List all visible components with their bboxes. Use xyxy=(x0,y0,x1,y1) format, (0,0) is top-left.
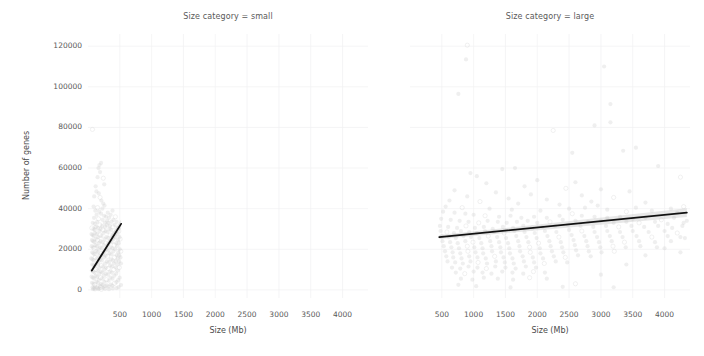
data-point xyxy=(532,260,536,264)
data-point xyxy=(478,199,482,203)
data-point xyxy=(557,214,561,218)
data-point xyxy=(557,235,561,239)
data-point xyxy=(481,251,485,255)
facet-title: Size category = small xyxy=(88,12,368,21)
data-point xyxy=(507,196,511,200)
data-point xyxy=(666,222,670,226)
data-point xyxy=(115,220,119,224)
data-point xyxy=(583,206,587,210)
data-point xyxy=(512,261,516,265)
data-point xyxy=(463,272,467,276)
data-point xyxy=(473,226,477,230)
data-point xyxy=(592,123,596,127)
data-point xyxy=(497,215,501,219)
data-point xyxy=(504,236,508,240)
data-point xyxy=(484,256,488,260)
data-point xyxy=(507,246,511,250)
data-point xyxy=(508,251,512,255)
data-point xyxy=(456,283,460,287)
data-point xyxy=(662,229,666,233)
y-tick-label: 100000 xyxy=(34,82,82,91)
data-point xyxy=(559,240,563,244)
data-point xyxy=(468,259,472,263)
data-point xyxy=(521,254,525,258)
data-point xyxy=(612,285,616,289)
data-point xyxy=(457,246,461,250)
data-point xyxy=(573,180,577,184)
data-point xyxy=(510,256,514,260)
data-point xyxy=(597,240,601,244)
data-point xyxy=(102,182,106,186)
data-point xyxy=(103,287,107,291)
data-point xyxy=(480,246,484,250)
x-tick-label: 4000 xyxy=(323,310,363,319)
data-point xyxy=(477,221,481,225)
data-point xyxy=(461,261,465,265)
data-point xyxy=(621,149,625,153)
data-point xyxy=(605,208,609,212)
data-point xyxy=(528,276,532,280)
data-point xyxy=(465,194,469,198)
data-point xyxy=(494,259,498,263)
data-point xyxy=(642,225,646,229)
data-point xyxy=(669,239,673,243)
data-point xyxy=(680,224,684,228)
scatter-panel xyxy=(88,34,370,300)
data-point xyxy=(499,250,503,254)
data-point xyxy=(488,239,492,243)
data-point xyxy=(117,241,121,245)
data-point xyxy=(528,245,532,249)
data-point xyxy=(465,244,469,248)
data-point xyxy=(533,231,537,235)
data-point xyxy=(534,265,538,269)
data-point xyxy=(485,261,489,265)
data-point xyxy=(107,287,111,291)
data-point xyxy=(468,171,472,175)
data-point xyxy=(618,230,622,234)
data-point xyxy=(549,244,553,248)
data-point xyxy=(662,246,666,250)
data-point xyxy=(605,229,609,233)
data-point xyxy=(542,261,546,265)
figure-container: Number of genes 020000400006000080000100… xyxy=(0,0,704,356)
data-point xyxy=(108,213,112,217)
data-point xyxy=(620,235,624,239)
data-point xyxy=(570,233,574,237)
y-axis-label: Number of genes xyxy=(22,131,31,200)
data-point xyxy=(565,260,569,264)
data-point xyxy=(624,210,628,214)
data-point xyxy=(501,255,505,259)
data-point xyxy=(500,270,504,274)
data-point xyxy=(467,254,471,258)
data-point xyxy=(92,194,96,198)
data-point xyxy=(454,271,458,275)
data-point xyxy=(561,218,565,222)
data-point xyxy=(451,250,455,254)
data-point xyxy=(570,212,574,216)
data-point xyxy=(643,253,647,257)
data-point xyxy=(95,175,99,179)
data-point xyxy=(473,250,477,254)
confidence-band xyxy=(439,208,687,239)
data-point xyxy=(599,187,603,191)
data-point xyxy=(545,234,549,238)
data-point xyxy=(608,234,612,238)
data-point xyxy=(96,166,100,170)
data-point xyxy=(634,146,638,150)
data-point xyxy=(653,220,657,224)
data-point xyxy=(589,199,593,203)
data-point xyxy=(522,184,526,188)
data-point xyxy=(503,265,507,269)
data-point xyxy=(655,245,659,249)
data-point xyxy=(561,250,565,254)
data-point xyxy=(531,255,535,259)
data-point xyxy=(551,128,555,132)
data-point xyxy=(550,249,554,253)
data-point xyxy=(472,213,476,217)
data-point xyxy=(119,261,123,265)
data-point xyxy=(496,220,500,224)
data-point xyxy=(656,164,660,168)
data-point xyxy=(545,197,549,201)
data-point xyxy=(494,190,498,194)
data-point xyxy=(634,206,638,210)
